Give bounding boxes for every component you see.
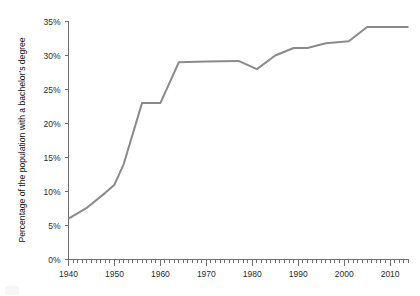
y-tick-label: 25%: [43, 85, 60, 95]
x-tick-label: 1960: [151, 269, 170, 279]
y-tick-label: 0%: [48, 255, 61, 265]
x-tick-label: 1970: [197, 269, 216, 279]
x-tick-label: 2000: [335, 269, 354, 279]
x-tick-label: 1940: [59, 269, 78, 279]
line-chart: Percentage of the population with a bach…: [0, 0, 420, 296]
y-axis-ticks: 0%5%10%15%20%25%30%35%: [43, 17, 68, 265]
y-axis-title-group: Percentage of the population with a bach…: [17, 37, 27, 242]
y-axis-title: Percentage of the population with a bach…: [17, 37, 27, 242]
y-tick-label: 15%: [43, 153, 60, 163]
series-line-bachelors-degree: [69, 27, 409, 219]
y-tick-label: 30%: [43, 51, 60, 61]
x-tick-label: 2010: [381, 269, 400, 279]
y-tick-label: 5%: [48, 221, 61, 231]
x-tick-label: 1980: [243, 269, 262, 279]
y-tick-label: 10%: [43, 187, 60, 197]
x-tick-label: 1990: [289, 269, 308, 279]
y-tick-label: 35%: [43, 17, 60, 27]
x-axis-ticks: 19401950196019701980199020002010: [59, 260, 408, 279]
x-tick-label: 1950: [105, 269, 124, 279]
page-corner-artifact: [5, 286, 19, 295]
y-tick-label: 20%: [43, 119, 60, 129]
chart-container: Percentage of the population with a bach…: [0, 0, 420, 296]
